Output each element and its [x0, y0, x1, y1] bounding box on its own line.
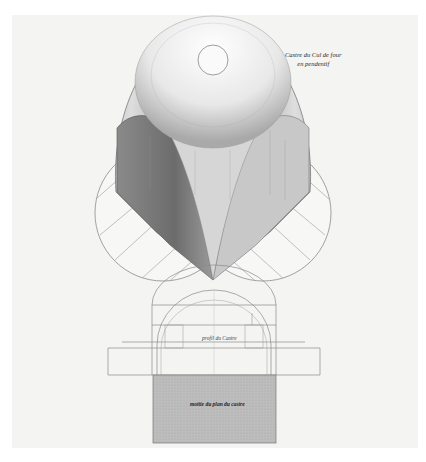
- plan-rectangle: [153, 375, 276, 443]
- title-line-1: Castre du Cul de four: [285, 52, 341, 59]
- architectural-drawing: [0, 0, 426, 462]
- inner-dome: [135, 16, 291, 148]
- profile-label: profil du Castre: [202, 336, 237, 342]
- profile-section: [108, 265, 320, 375]
- title-label: Castre du Cul de four en pendentif: [285, 52, 341, 67]
- plan-label: moitie du plan du castre: [190, 402, 245, 408]
- title-line-2: en pendentif: [285, 61, 341, 68]
- oculus-circle: [198, 45, 228, 75]
